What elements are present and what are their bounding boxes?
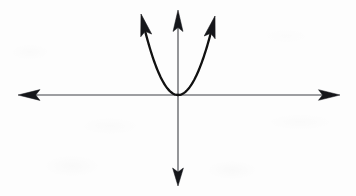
y-axis [173, 10, 184, 186]
parabola-left-branch [145, 32, 178, 95]
parabola-right-branch [178, 34, 211, 95]
parabola-figure: Upward-opening parabola with vertex at t… [0, 0, 356, 196]
coordinate-plane-svg: Upward-opening parabola with vertex at t… [0, 0, 356, 196]
